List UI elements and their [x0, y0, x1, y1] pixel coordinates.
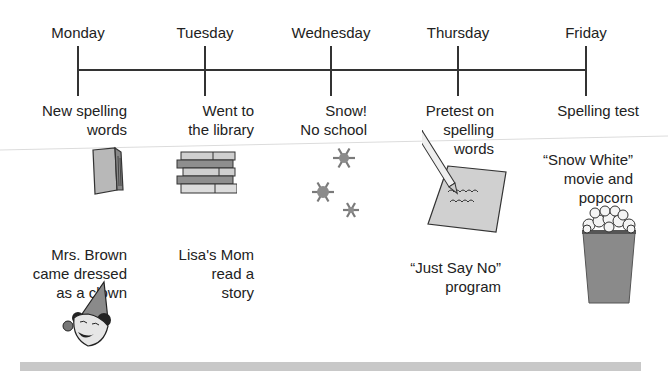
book-icon	[89, 146, 125, 196]
day-label-wednesday: Wednesday	[271, 24, 391, 41]
tick-thursday	[457, 46, 459, 96]
timeline-axis	[78, 69, 587, 71]
clown-icon	[60, 280, 120, 350]
event-tuesday-library: Went to the library	[188, 101, 254, 139]
event-wednesday-snow: Snow! No school	[300, 101, 367, 139]
event-thursday-just-say-no: “Just Say No” program	[410, 258, 501, 296]
book-stack-icon	[173, 150, 237, 196]
day-label-thursday: Thursday	[398, 24, 518, 41]
event-tuesday-story: Lisa's Mom read a story	[179, 245, 254, 302]
event-friday-movie: “Snow White” movie and popcorn	[543, 150, 633, 207]
popcorn-icon	[579, 205, 639, 305]
day-label-tuesday: Tuesday	[145, 24, 265, 41]
tick-monday	[77, 46, 79, 96]
day-label-monday: Monday	[18, 24, 138, 41]
event-friday-spelling-test: Spelling test	[557, 101, 639, 120]
day-label-friday: Friday	[526, 24, 646, 41]
snowflakes-icon	[310, 140, 366, 220]
tick-tuesday	[204, 46, 206, 96]
tick-friday	[585, 46, 587, 96]
bottom-divider-bar	[20, 362, 641, 371]
tick-wednesday	[330, 46, 332, 96]
event-monday-spelling-words: New spelling words	[42, 101, 127, 139]
pencil-paper-icon	[422, 130, 512, 240]
